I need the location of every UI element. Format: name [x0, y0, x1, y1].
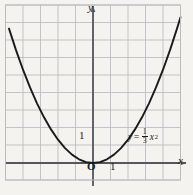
- equation-exponent: 2: [155, 133, 158, 140]
- equation-variable: x: [150, 132, 154, 142]
- graph-figure: y x O 1 1 y = 1 3 x 2: [0, 0, 193, 195]
- axes: [6, 6, 187, 186]
- fraction-numerator: 1: [142, 128, 148, 136]
- equation-lhs: y: [128, 132, 132, 142]
- y-axis-label: y: [88, 2, 93, 13]
- curve-equation-label: y = 1 3 x 2: [128, 128, 158, 146]
- plot-canvas: [0, 0, 193, 195]
- fraction-denominator: 3: [142, 137, 148, 145]
- origin-label: O: [87, 161, 96, 172]
- equation-equals: =: [133, 132, 139, 142]
- y-tick-label-1: 1: [79, 130, 85, 141]
- x-tick-label-1: 1: [110, 161, 116, 172]
- x-axis-label: x: [178, 155, 183, 166]
- equation-fraction: 1 3: [142, 128, 148, 146]
